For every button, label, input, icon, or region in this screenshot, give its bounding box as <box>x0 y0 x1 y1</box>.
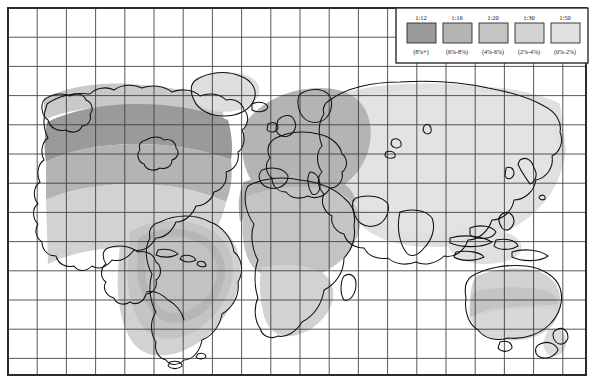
legend-ratio-label-1: 1:12 <box>415 14 427 21</box>
legend-range-label-2: (6%-8%) <box>446 49 468 56</box>
legend-range-label-3: (4%-6%) <box>482 49 504 56</box>
shaded-classes-layer <box>44 72 566 356</box>
legend-range-label-1: (8%+) <box>413 49 428 56</box>
legend-ratio-label-3: 1:20 <box>487 14 499 21</box>
legend-swatch-1 <box>407 23 436 43</box>
legend: 1:12 (8%+) 1:16 (6%-8%) 1:20 (4%-6%) 1:3… <box>396 8 588 63</box>
legend-range-label-5: (0%-2%) <box>554 49 576 56</box>
legend-swatch-4 <box>515 23 544 43</box>
legend-range-label-4: (2%-4%) <box>518 49 540 56</box>
legend-ratio-label-5: 1:50 <box>559 14 571 21</box>
world-map-svg: 1:12 (8%+) 1:16 (6%-8%) 1:20 (4%-6%) 1:3… <box>0 0 594 389</box>
legend-swatch-5 <box>551 23 580 43</box>
legend-swatch-3 <box>479 23 508 43</box>
legend-swatch-2 <box>443 23 472 43</box>
legend-ratio-label-2: 1:16 <box>451 14 463 21</box>
legend-ratio-label-4: 1:30 <box>523 14 535 21</box>
map-figure: 1:12 (8%+) 1:16 (6%-8%) 1:20 (4%-6%) 1:3… <box>0 0 594 389</box>
